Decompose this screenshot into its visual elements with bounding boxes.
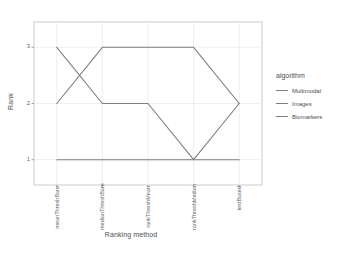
legend-item-biomarkers[interactable]: Biomarkers: [276, 111, 340, 122]
x-tick-label: rankThreshMean: [145, 186, 151, 230]
legend-line-swatch-icon: [276, 111, 288, 122]
y-tick-label: 2: [8, 100, 30, 106]
x-tick-label: testBased: [236, 186, 242, 230]
legend-item-label: Images: [292, 101, 312, 107]
x-axis-title: Ranking method: [0, 231, 262, 238]
legend-line-swatch-icon: [276, 98, 288, 109]
plot-canvas: [0, 0, 340, 253]
legend-title: algorithm: [276, 72, 340, 79]
x-tick-label: medianThreshBare: [99, 186, 105, 230]
legend-item-label: Biomarkers: [292, 114, 322, 120]
legend-items: MultimodalImagesBiomarkers: [276, 85, 340, 122]
legend-item-images[interactable]: Images: [276, 98, 340, 109]
legend-item-label: Multimodal: [292, 88, 321, 94]
x-tick-label: meanThreshBare: [54, 186, 60, 230]
legend-item-multimodal[interactable]: Multimodal: [276, 85, 340, 96]
y-tick-label: 3: [8, 43, 30, 49]
x-tick-label: rankThreshMedian: [191, 186, 197, 230]
chart-figure: Ranking method Rank 123 meanThreshBareme…: [0, 0, 340, 253]
legend-line-swatch-icon: [276, 85, 288, 96]
y-tick-label: 1: [8, 156, 30, 162]
legend: algorithm MultimodalImagesBiomarkers: [276, 72, 340, 124]
